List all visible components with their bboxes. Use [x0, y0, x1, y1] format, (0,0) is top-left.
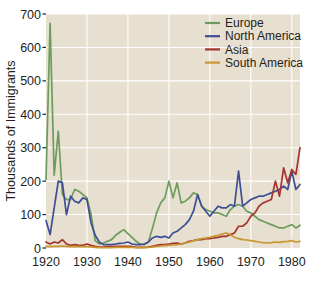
legend-label-south-america: South America [225, 56, 303, 70]
y-tick-label: 500 [20, 74, 41, 88]
legend-label-north-america: North America [225, 29, 301, 43]
y-tick-label: 0 [34, 242, 41, 256]
y-tick-label: 700 [20, 8, 41, 22]
legend-label-europe: Europe [225, 16, 264, 30]
x-tick-label: 1970 [237, 255, 265, 269]
y-tick-label: 400 [20, 108, 41, 122]
x-tick-label: 1940 [114, 255, 142, 269]
y-tick-label: 200 [20, 175, 41, 189]
legend-label-asia: Asia [225, 43, 249, 57]
x-tick-label: 1950 [155, 255, 183, 269]
x-tick-label: 1930 [73, 255, 101, 269]
plot-area-background [46, 14, 300, 248]
x-tick-label: 1980 [278, 255, 306, 269]
x-tick-label: 1920 [32, 255, 60, 269]
immigration-line-chart: 0100200300400500600700 19201930194019501… [0, 0, 309, 283]
y-tick-label: 300 [20, 141, 41, 155]
chart-canvas: 0100200300400500600700 19201930194019501… [0, 0, 309, 283]
x-tick-label: 1960 [196, 255, 224, 269]
y-tick-label: 600 [20, 41, 41, 55]
x-axis-tick-labels: 1920193019401950196019701980 [32, 255, 306, 269]
y-axis-title: Thousands of Immigrants [4, 60, 18, 201]
y-tick-label: 100 [20, 208, 41, 222]
